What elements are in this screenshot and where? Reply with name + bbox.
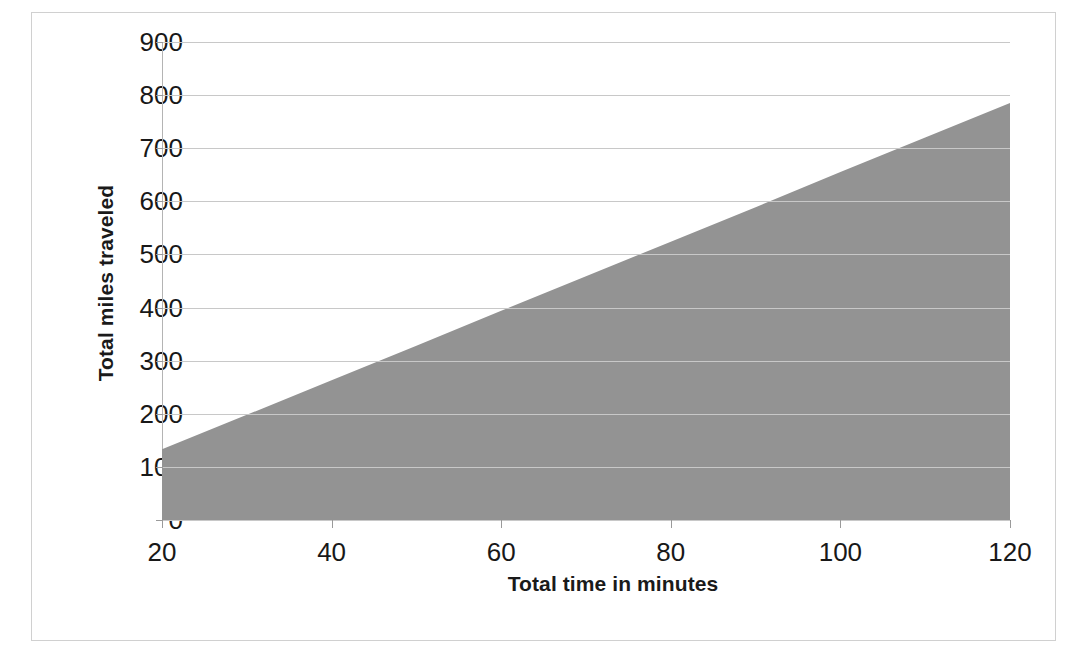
y-tick-mark-900 [156, 42, 163, 43]
x-tick-mark-100 [840, 520, 841, 528]
gridline-y-900 [162, 42, 1010, 43]
gridline-y-100 [162, 467, 1010, 468]
y-tick-mark-100 [156, 467, 163, 468]
chart-frame: Total miles traveled 9008007006005004003… [31, 12, 1056, 641]
x-tick-label-100: 100 [780, 539, 900, 565]
gridline-y-800 [162, 95, 1010, 96]
x-tick-label-80: 80 [611, 539, 731, 565]
y-tick-mark-800 [156, 95, 163, 96]
gridline-y-400 [162, 308, 1010, 309]
x-tick-label-20: 20 [102, 539, 222, 565]
x-tick-mark-80 [671, 520, 672, 528]
y-tick-mark-200 [156, 414, 163, 415]
x-tick-mark-60 [501, 520, 502, 528]
x-tick-label-60: 60 [441, 539, 561, 565]
x-tick-label-120: 120 [950, 539, 1065, 565]
x-axis-title: Total time in minutes [163, 572, 1063, 596]
x-tick-label-40: 40 [272, 539, 392, 565]
gridline-y-200 [162, 414, 1010, 415]
x-tick-mark-40 [332, 520, 333, 528]
y-tick-mark-500 [156, 254, 163, 255]
x-tick-mark-120 [1010, 520, 1011, 528]
gridline-y-500 [162, 254, 1010, 255]
plot-area [162, 42, 1010, 520]
y-tick-mark-400 [156, 308, 163, 309]
y-tick-mark-300 [156, 361, 163, 362]
gridline-y-0 [162, 520, 1010, 521]
y-tick-mark-700 [156, 148, 163, 149]
y-tick-mark-600 [156, 201, 163, 202]
area-series-shape [162, 42, 1010, 520]
gridline-y-700 [162, 148, 1010, 149]
gridline-y-300 [162, 361, 1010, 362]
gridline-y-600 [162, 201, 1010, 202]
x-tick-mark-20 [162, 520, 163, 528]
